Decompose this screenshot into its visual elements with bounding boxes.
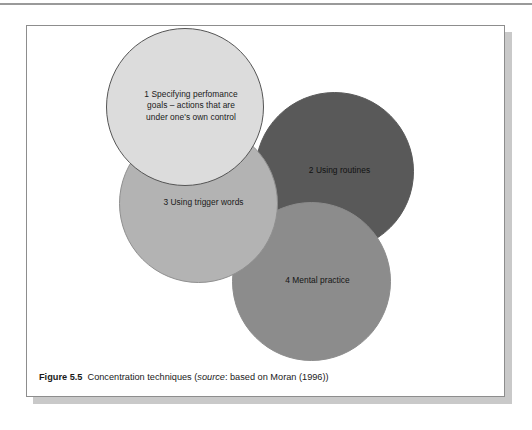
page-top-rule <box>0 3 532 5</box>
page-root: 1 Specifying perfomance goals – actions … <box>0 0 532 430</box>
figure-caption-title: Concentration techniques <box>88 372 195 382</box>
bubble-specifying-performance-goals[interactable]: 1 Specifying perfomance goals – actions … <box>106 28 264 186</box>
bubble-3-label: 3 Using trigger words <box>163 197 243 209</box>
figure-caption-number: Figure 5.5 <box>39 372 82 382</box>
bubble-1-label: 1 Specifying perfomance goals – actions … <box>144 89 237 124</box>
concentration-techniques-diagram: 1 Specifying perfomance goals – actions … <box>27 26 504 366</box>
bubble-2-label: 2 Using routines <box>309 165 370 177</box>
bubble-4-label: 4 Mental practice <box>285 275 350 287</box>
figure-caption: Figure 5.5 Concentration techniques (sou… <box>39 371 490 384</box>
figure-caption-source-rest: : based on Moran (1996)) <box>225 372 329 382</box>
figure-caption-source-word: source <box>197 372 225 382</box>
figure-frame: 1 Specifying perfomance goals – actions … <box>26 25 505 397</box>
